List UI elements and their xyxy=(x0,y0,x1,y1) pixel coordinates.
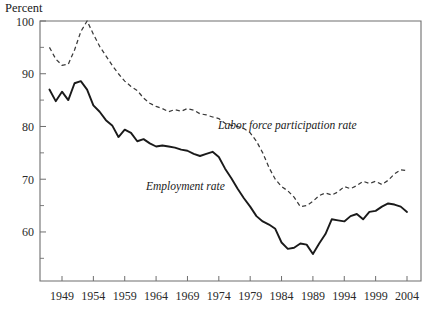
x-tick-labels: 1949195419591964196919741979198419891994… xyxy=(50,289,419,303)
line-chart: Percent 10090807060 19491954195919641969… xyxy=(0,0,441,310)
annotation-labor-force-participation-rate: Labor force participation rate xyxy=(217,119,357,132)
series-line-labor-force-participation-rate xyxy=(49,21,407,207)
y-tick-label: 70 xyxy=(22,173,34,187)
x-tick-label: 1954 xyxy=(81,289,105,303)
series-line-employment-rate xyxy=(49,81,407,254)
x-tick-label: 1999 xyxy=(364,289,388,303)
y-tick-label: 90 xyxy=(22,67,34,81)
x-tick-label: 1974 xyxy=(207,289,231,303)
x-tick-label: 1949 xyxy=(50,289,74,303)
x-tick-label: 1959 xyxy=(113,289,137,303)
y-tick-label: 60 xyxy=(22,225,34,239)
x-tick-label: 1964 xyxy=(144,289,168,303)
plot-frame xyxy=(40,21,421,281)
x-tick-label: 1989 xyxy=(301,289,325,303)
y-tick-labels: 10090807060 xyxy=(16,15,34,240)
x-tick-label: 1979 xyxy=(238,289,262,303)
x-tick-label: 1994 xyxy=(332,289,356,303)
axis-ticks xyxy=(40,21,407,281)
chart-figure: Percent 10090807060 19491954195919641969… xyxy=(0,0,441,310)
x-tick-label: 1984 xyxy=(270,289,294,303)
y-tick-label: 100 xyxy=(16,15,34,29)
x-tick-label: 1969 xyxy=(175,289,199,303)
y-tick-label: 80 xyxy=(22,120,34,134)
x-tick-label: 2004 xyxy=(395,289,419,303)
annotation-employment-rate: Employment rate xyxy=(145,180,225,193)
y-axis-title: Percent xyxy=(5,1,43,15)
